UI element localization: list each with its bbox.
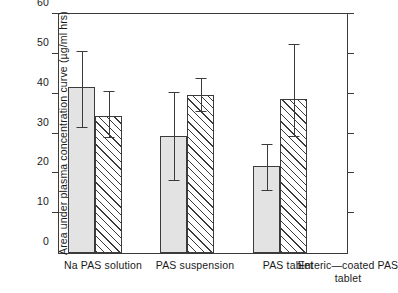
error-cap-2-stippled-lower — [168, 180, 179, 181]
y-tick-label-0: 0 — [43, 235, 49, 247]
y-tick-label-50: 50 — [37, 36, 49, 48]
error-cap-1-hatched-upper — [103, 91, 114, 92]
y-tick-right-20 — [347, 172, 354, 173]
error-cap-1-stippled-lower — [76, 127, 87, 128]
y-tick-40 — [52, 93, 59, 94]
error-bar-1-stippled — [82, 52, 83, 127]
error-cap-3-stippled-upper — [261, 144, 272, 145]
y-tick-right-50 — [347, 53, 354, 54]
error-bar-3-hatched — [294, 45, 295, 137]
error-cap-2-hatched-lower — [195, 111, 206, 112]
error-bar-2-stippled — [174, 93, 175, 181]
y-tick-label-60: 60 — [37, 0, 49, 8]
plot-area: Area under plasma concentration curve (µ… — [58, 13, 348, 254]
y-tick-right-40 — [347, 93, 354, 94]
y-tick-right-30 — [347, 133, 354, 134]
y-tick-10 — [52, 212, 59, 213]
y-tick-right-60 — [347, 13, 354, 14]
error-bar-2-hatched — [201, 79, 202, 112]
error-cap-2-stippled-upper — [168, 92, 179, 93]
bar-2-hatched — [187, 95, 214, 253]
y-tick-label-30: 30 — [37, 116, 49, 128]
y-tick-30 — [52, 133, 59, 134]
y-tick-right-10 — [347, 212, 354, 213]
y-tick-label-20: 20 — [37, 155, 49, 167]
error-bar-3-stippled — [267, 145, 268, 190]
x-axis-label-1-line1: Na PAS solution — [64, 259, 142, 272]
error-cap-3-stippled-lower — [261, 190, 272, 191]
error-cap-3-hatched-lower — [288, 136, 299, 137]
x-axis-label-1: Na PAS solution — [64, 259, 142, 272]
error-cap-1-hatched-lower — [103, 137, 114, 138]
x-axis-label-4-line2: tablet — [298, 272, 398, 285]
y-tick-label-40: 40 — [37, 76, 49, 88]
y-tick-label-10: 10 — [37, 195, 49, 207]
y-tick-20 — [52, 172, 59, 173]
error-cap-1-stippled-upper — [76, 51, 87, 52]
x-axis-label-4: Enteric—coated PAStablet — [298, 259, 398, 284]
y-tick-50 — [52, 53, 59, 54]
x-axis-label-4-line1: Enteric—coated PAS — [298, 259, 398, 272]
x-axis-label-2-line1: PAS suspension — [156, 259, 234, 272]
y-tick-60 — [52, 13, 59, 14]
error-bar-1-hatched — [109, 92, 110, 138]
x-axis-label-2: PAS suspension — [156, 259, 234, 272]
error-cap-3-hatched-upper — [288, 44, 299, 45]
error-cap-2-hatched-upper — [195, 78, 206, 79]
